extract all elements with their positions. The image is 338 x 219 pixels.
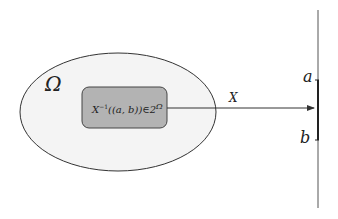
random-variable-diagram: Ω X−1((a, b))∈2Ω X a b <box>0 0 338 219</box>
diagram-graphics <box>0 0 338 219</box>
preimage-label-body: ((a, b))∈2 <box>108 104 156 115</box>
preimage-label: X−1((a, b))∈2Ω <box>92 103 163 115</box>
interval-start-label: a <box>303 69 313 85</box>
mapping-label: X <box>229 92 238 104</box>
sample-space-label: Ω <box>45 74 62 94</box>
interval-end-label: b <box>300 130 310 146</box>
preimage-label-power: Ω <box>156 102 163 111</box>
preimage-label-sup: −1 <box>99 103 108 110</box>
